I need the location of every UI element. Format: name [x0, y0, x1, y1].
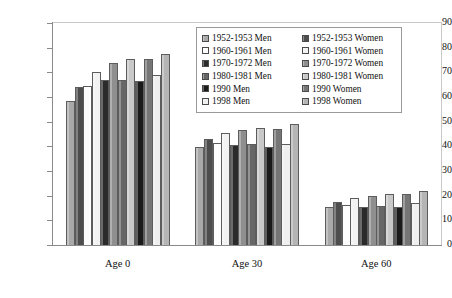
- legend-item[interactable]: 1998 Women: [302, 95, 396, 108]
- legend-item[interactable]: 1980-1981 Men: [202, 70, 296, 83]
- legend-swatch-icon: [302, 35, 309, 42]
- legend-swatch-icon: [302, 98, 309, 105]
- legend-item-label: 1952-1953 Women: [312, 33, 383, 43]
- legend-item[interactable]: 1952-1953 Men: [202, 32, 296, 45]
- legend-swatch-icon: [202, 60, 209, 67]
- legend-swatch-icon: [202, 73, 209, 80]
- legend-swatch-icon: [302, 60, 309, 67]
- legend-column: 1952-1953 Men1960-1961 Men1970-1972 Men1…: [202, 32, 296, 108]
- legend-item-label: 1960-1961 Women: [312, 46, 383, 56]
- legend-item-label: 1970-1972 Men: [212, 58, 272, 68]
- bar: [419, 191, 428, 245]
- legend-item-label: 1980-1981 Women: [312, 71, 383, 81]
- legend-item-label: 1990 Men: [212, 84, 250, 94]
- legend-swatch-icon: [302, 85, 309, 92]
- bar: [161, 54, 170, 245]
- x-axis-label: Age 0: [53, 258, 182, 269]
- legend-item[interactable]: 1990 Men: [202, 82, 296, 95]
- legend-item[interactable]: 1990 Women: [302, 82, 396, 95]
- legend-swatch-icon: [302, 73, 309, 80]
- legend-swatch-icon: [202, 98, 209, 105]
- legend-item[interactable]: 1998 Men: [202, 95, 296, 108]
- legend-swatch-icon: [302, 47, 309, 54]
- legend-item-label: 1980-1981 Men: [212, 71, 272, 81]
- legend-item[interactable]: 1970-1972 Men: [202, 57, 296, 70]
- x-axis-label: Age 60: [312, 258, 441, 269]
- legend-item-label: 1970-1972 Women: [312, 58, 383, 68]
- bar-group: [66, 23, 169, 245]
- legend-item[interactable]: 1970-1972 Women: [302, 57, 396, 70]
- bar-chart: Further life expectancy in years 0102030…: [0, 0, 452, 298]
- legend-item[interactable]: 1980-1981 Women: [302, 70, 396, 83]
- legend-columns: 1952-1953 Men1960-1961 Men1970-1972 Men1…: [202, 32, 396, 108]
- legend-item-label: 1960-1961 Men: [212, 46, 272, 56]
- legend-item-label: 1998 Men: [212, 96, 250, 106]
- x-axis-label: Age 30: [182, 258, 311, 269]
- legend-item[interactable]: 1960-1961 Women: [302, 45, 396, 58]
- legend-item-label: 1998 Women: [312, 96, 361, 106]
- legend-item-label: 1990 Women: [312, 84, 361, 94]
- legend-swatch-icon: [202, 35, 209, 42]
- bar: [290, 124, 299, 245]
- x-axis-line: [52, 245, 442, 246]
- legend-swatch-icon: [202, 47, 209, 54]
- legend-column: 1952-1953 Women1960-1961 Women1970-1972 …: [302, 32, 396, 108]
- legend-swatch-icon: [202, 85, 209, 92]
- legend-item[interactable]: 1952-1953 Women: [302, 32, 396, 45]
- legend-item-label: 1952-1953 Men: [212, 33, 272, 43]
- chart-legend: 1952-1953 Men1960-1961 Men1970-1972 Men1…: [196, 27, 402, 113]
- legend-item[interactable]: 1960-1961 Men: [202, 45, 296, 58]
